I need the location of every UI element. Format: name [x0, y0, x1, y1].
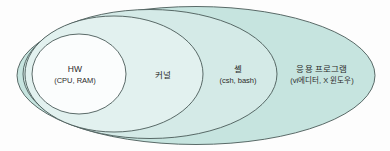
nested-ellipse-graphic: [0, 0, 390, 151]
ellipse-hardware: [32, 34, 126, 114]
diagram-canvas: HW (CPU, RAM) 커널 셸 (csh, bash) 응용 프로그램 (…: [0, 0, 390, 151]
